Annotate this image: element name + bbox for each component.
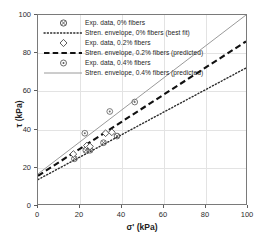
x-axis-tick (163, 205, 164, 208)
line-dashed-icon (43, 48, 83, 58)
line-solid-icon (43, 68, 83, 78)
legend-label: Stren. envelope, 0.4% fibers (predicted) (83, 68, 203, 78)
x-axis-tick-label: 60 (159, 210, 167, 219)
legend-item-exp-0[interactable]: Exp. data, 0% fibers (43, 18, 203, 28)
chart-legend: Exp. data, 0% fibers Stren. envelope, 0%… (43, 18, 203, 78)
data-point (102, 130, 109, 137)
y-axis-tick-label: 100 (18, 10, 31, 19)
legend-item-envelope-04[interactable]: Stren. envelope, 0.4% fibers (predicted) (43, 68, 203, 78)
x-axis-tick (205, 205, 206, 208)
x-axis-tick (247, 205, 248, 208)
y-axis-tick (34, 52, 37, 53)
legend-label: Stren. envelope, 0.2% fibers (predicted) (83, 48, 203, 58)
data-point (82, 130, 88, 136)
y-axis-tick (34, 205, 37, 206)
legend-item-envelope-02[interactable]: Stren. envelope, 0.2% fibers (predicted) (43, 48, 203, 58)
x-axis-label: σ' (kPa) (37, 222, 247, 232)
y-axis-tick (34, 14, 37, 15)
legend-item-exp-02[interactable]: Exp. data, 0.2% fibers (43, 38, 203, 48)
y-axis-label: τ (kPa) (14, 79, 24, 149)
x-axis-tick (121, 205, 122, 208)
x-axis-tick (79, 205, 80, 208)
legend-label: Exp. data, 0.2% fibers (83, 38, 151, 48)
series-line (38, 68, 246, 180)
y-axis-tick-label: 0 (27, 201, 31, 210)
x-axis-tick-label: 0 (35, 210, 39, 219)
x-axis-tick-label: 20 (75, 210, 83, 219)
y-axis-tick (34, 167, 37, 168)
plot-area: Exp. data, 0% fibers Stren. envelope, 0%… (37, 14, 247, 205)
legend-label: Exp. data, 0.4% fibers (83, 58, 151, 68)
marker-circle-dot-icon (43, 58, 83, 68)
marker-circle-cross-icon (43, 18, 83, 28)
y-axis-tick (34, 129, 37, 130)
legend-label: Stren. envelope, 0% fibers (best fit) (83, 28, 190, 38)
y-axis-tick-label: 80 (23, 48, 31, 57)
legend-item-envelope-0[interactable]: Stren. envelope, 0% fibers (best fit) (43, 28, 203, 38)
line-dotted-icon (43, 28, 83, 38)
x-axis-tick-label: 80 (201, 210, 209, 219)
x-axis-tick-label: 100 (241, 210, 254, 219)
y-axis-tick (34, 90, 37, 91)
legend-item-exp-04[interactable]: Exp. data, 0.4% fibers (43, 58, 203, 68)
data-point (107, 109, 113, 115)
marker-diamond-open-icon (43, 38, 83, 48)
chart-figure: Exp. data, 0% fibers Stren. envelope, 0%… (0, 0, 279, 244)
x-axis-tick-label: 40 (117, 210, 125, 219)
y-axis-tick-label: 20 (23, 162, 31, 171)
x-axis-tick (37, 205, 38, 208)
legend-label: Exp. data, 0% fibers (83, 18, 145, 28)
